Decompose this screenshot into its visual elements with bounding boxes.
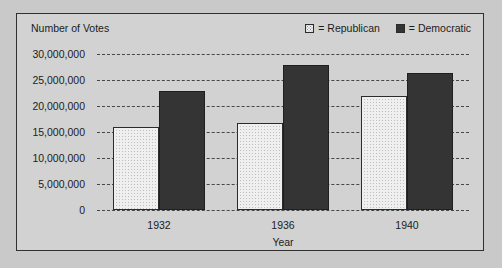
x-axis-tick-label: 1940	[361, 219, 453, 231]
legend-label-republican: = Republican	[318, 22, 380, 34]
plot-area: 05,000,00010,000,00015,000,00020,000,000…	[97, 54, 469, 210]
legend-swatch-republican-icon	[305, 24, 314, 33]
bar-democratic-1932	[159, 91, 205, 210]
legend-item-democratic: = Democratic	[396, 22, 471, 34]
chart-frame: Number of Votes = Republican = Democrati…	[16, 13, 484, 251]
gridline	[97, 210, 469, 211]
y-axis-tick-label: 10,000,000	[32, 152, 85, 164]
chart-legend: = Republican = Democratic	[305, 22, 471, 34]
y-axis-tick-label: 20,000,000	[32, 100, 85, 112]
bar-democratic-1936	[283, 65, 329, 210]
bar-democratic-1940	[407, 73, 453, 210]
x-axis-tick-label: 1932	[113, 219, 205, 231]
legend-swatch-democratic-icon	[396, 24, 405, 33]
y-axis-tick-label: 0	[79, 204, 85, 216]
bar-series-container: 193219361940	[97, 54, 469, 210]
y-axis-tick-label: 5,000,000	[38, 178, 85, 190]
bar-republican-1940	[361, 96, 407, 210]
bar-republican-1932	[113, 127, 159, 210]
y-axis-tick-label: 30,000,000	[32, 48, 85, 60]
y-axis-tick-label: 25,000,000	[32, 74, 85, 86]
bar-group: 1936	[237, 54, 329, 210]
x-axis-title: Year	[97, 236, 469, 248]
bar-group: 1940	[361, 54, 453, 210]
y-axis-tick-label: 15,000,000	[32, 126, 85, 138]
legend-item-republican: = Republican	[305, 22, 380, 34]
y-axis-title: Number of Votes	[31, 22, 109, 34]
bar-group: 1932	[113, 54, 205, 210]
x-axis-tick-label: 1936	[237, 219, 329, 231]
chart-header: Number of Votes = Republican = Democrati…	[17, 20, 483, 42]
legend-label-democratic: = Democratic	[409, 22, 471, 34]
chart-screenshot: Number of Votes = Republican = Democrati…	[0, 0, 502, 268]
bar-republican-1936	[237, 123, 283, 210]
